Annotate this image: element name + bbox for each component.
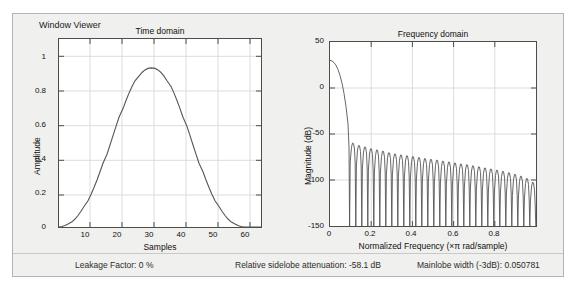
time-domain-xlabel: Samples [58, 242, 262, 252]
frequency-domain-axes[interactable] [329, 41, 537, 227]
frequency-domain-title: Frequency domain [329, 29, 537, 39]
time-domain-xtick-20: 20 [105, 231, 129, 239]
time-domain-ytick-0: 0 [20, 223, 46, 231]
time-domain-ytick-1: 1 [20, 53, 46, 61]
frequency-domain-ytick-minus150: -150 [296, 222, 324, 230]
time-domain-xtick-40: 40 [169, 231, 193, 239]
frequency-domain-xtick-08: 0.8 [483, 230, 505, 238]
time-domain-xtick-10: 10 [73, 231, 97, 239]
time-domain-axes[interactable] [58, 38, 262, 228]
time-domain-xtick-50: 50 [201, 231, 225, 239]
time-domain-ytick-02: 0.2 [20, 189, 46, 197]
time-domain-ytick-08: 0.8 [20, 87, 46, 95]
time-domain-xtick-30: 30 [137, 231, 161, 239]
relative-sidelobe-attenuation-text: Relative sidelobe attenuation: -58.1 dB [235, 260, 381, 270]
frequency-domain-ytick-50: 50 [296, 37, 324, 45]
measurements-statusbar: Leakage Factor: 0 % Relative sidelobe at… [13, 253, 563, 276]
frequency-domain-plot-svg [330, 42, 536, 226]
time-domain-xtick-60: 60 [233, 231, 257, 239]
frequency-domain-xtick-0: 0 [318, 230, 340, 238]
time-domain-plot-svg [59, 39, 261, 227]
time-domain-ytick-06: 0.6 [20, 121, 46, 129]
frequency-domain-xlabel: Normalized Frequency (×π rad/sample) [329, 241, 537, 251]
frequency-domain-xtick-02: 0.2 [359, 230, 381, 238]
frequency-domain-xtick-06: 0.6 [442, 230, 464, 238]
frequency-domain-ytick-minus50: -50 [296, 129, 324, 137]
time-domain-title: Time domain [58, 26, 262, 36]
time-domain-curve [59, 68, 261, 227]
frequency-domain-curve [330, 60, 536, 226]
frequency-domain-xtick-04: 0.4 [400, 230, 422, 238]
frequency-domain-ytick-0: 0 [296, 83, 324, 91]
frequency-domain-ytick-minus100: -100 [296, 176, 324, 184]
leakage-factor-text: Leakage Factor: 0 % [75, 260, 153, 270]
mainlobe-width-text: Mainlobe width (-3dB): 0.050781 [417, 260, 540, 270]
time-domain-ytick-04: 0.4 [20, 155, 46, 163]
